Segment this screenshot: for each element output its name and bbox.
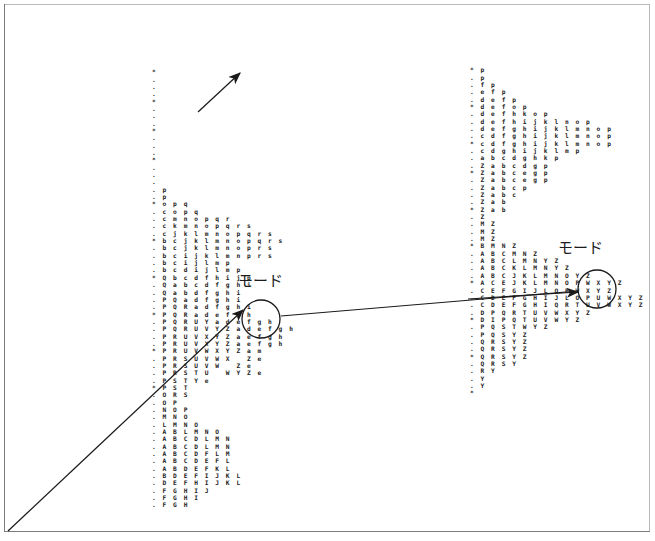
frame-left-rule: [4, 4, 5, 532]
frame-bottom-rule: [4, 531, 650, 532]
right-mode-map: * p . p . f p . e f p . d e f p * d e f …: [470, 66, 644, 396]
left-mode-label: モード: [238, 269, 283, 290]
right-mode-label: モード: [558, 236, 603, 257]
figure-canvas: * . . . * . . . * . . . * . . . . p . p …: [0, 0, 655, 541]
frame-right-rule: [649, 4, 650, 532]
frame-top-rule: [4, 4, 650, 5]
